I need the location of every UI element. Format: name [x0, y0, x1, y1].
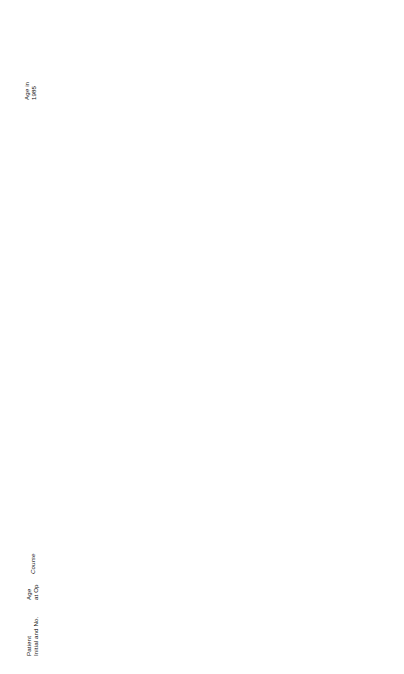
header-age-at-op: Age at Op — [26, 584, 39, 600]
header-course: Course — [30, 553, 37, 574]
patient-course-figure: Patient Initial and No.Age at OpCourseAg… — [0, 0, 404, 674]
header-patient: Patient Initial and No. — [26, 617, 39, 656]
header-age-1985: Age in 1985 — [24, 82, 37, 100]
figure-canvas: Patient Initial and No.Age at OpCourseAg… — [0, 0, 404, 674]
timeline-grid: Patient Initial and No.Age at OpCourseAg… — [20, 14, 384, 666]
